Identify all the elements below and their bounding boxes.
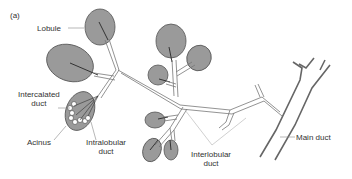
- lobule-bottom-1: [145, 112, 165, 128]
- lobule-top-left: [85, 9, 115, 45]
- label-lobule: Lobule: [37, 24, 61, 33]
- label-intralobular-duct: Intralobular duct: [86, 138, 126, 156]
- label-interlobular-duct: Interlobular duct: [191, 150, 231, 168]
- label-acinus: Acinus: [27, 138, 51, 147]
- panel-label: (a): [10, 11, 20, 20]
- lobule-bottom-2: [139, 136, 164, 165]
- lobule-acinus: [60, 87, 100, 134]
- lobules: [41, 9, 216, 164]
- label-main-duct: Main duct: [296, 133, 331, 142]
- interlobular-outline: [185, 110, 246, 145]
- main-duct: [260, 58, 330, 160]
- label-intercalated-duct: Intercalated duct: [18, 90, 60, 108]
- lobule-center-small: [148, 65, 168, 85]
- lobule-top-center: [156, 24, 186, 58]
